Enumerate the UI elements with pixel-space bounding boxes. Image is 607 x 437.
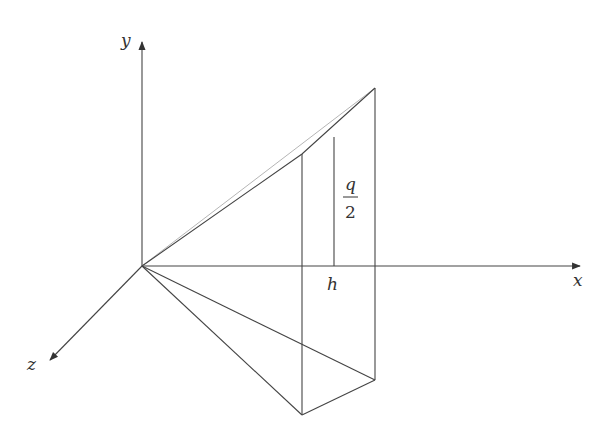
pyramid-diagram: y x z h q 2 — [0, 0, 607, 437]
fraction-denominator: 2 — [345, 202, 356, 222]
bottom-far-edge — [142, 266, 375, 380]
fraction-numerator: q — [345, 174, 356, 194]
bottom-base-edge — [302, 380, 375, 415]
faint-diagonal-line — [142, 88, 375, 266]
y-axis-label: y — [120, 30, 131, 50]
bottom-near-edge — [142, 266, 302, 415]
z-axis — [50, 266, 142, 360]
h-label: h — [327, 274, 338, 294]
z-axis-label: z — [26, 354, 37, 374]
x-axis-label: x — [573, 270, 583, 290]
